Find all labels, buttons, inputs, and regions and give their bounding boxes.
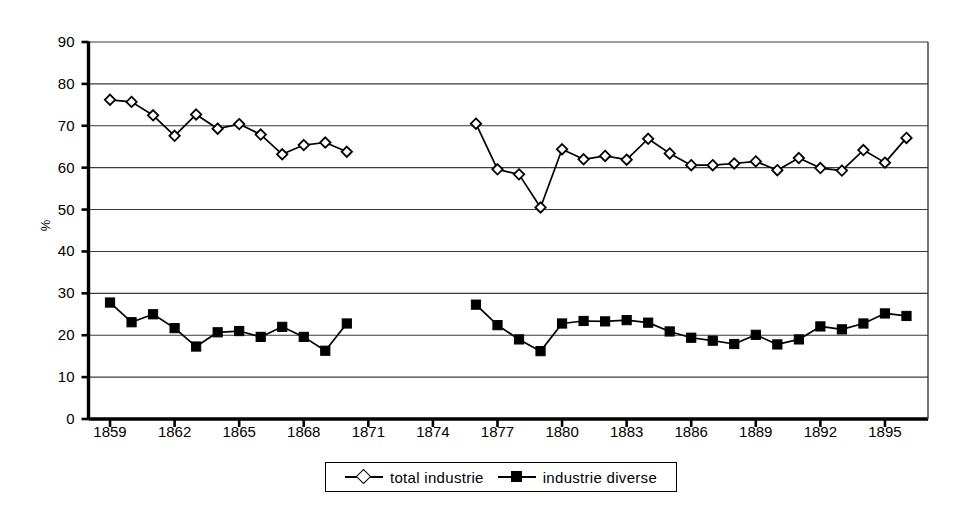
x-tick-label: 1886 bbox=[656, 424, 726, 439]
y-tick-label: 10 bbox=[41, 369, 75, 384]
x-tick-label: 1880 bbox=[527, 424, 597, 439]
x-tick-label: 1889 bbox=[721, 424, 791, 439]
x-tick-label: 1859 bbox=[75, 424, 145, 439]
y-tick-label: 40 bbox=[41, 243, 75, 258]
y-tick-label: 90 bbox=[41, 34, 75, 49]
legend-marker-square-icon bbox=[498, 470, 536, 484]
y-tick-label: 60 bbox=[41, 160, 75, 175]
plot-frame bbox=[89, 42, 929, 420]
x-tick-label: 1874 bbox=[398, 424, 468, 439]
x-tick-label: 1895 bbox=[850, 424, 920, 439]
x-tick-label: 1871 bbox=[333, 424, 403, 439]
y-tick-label: 80 bbox=[41, 76, 75, 91]
legend-label: total industrie bbox=[390, 469, 484, 486]
legend-marker-diamond-icon bbox=[345, 470, 383, 484]
data-series-layer bbox=[105, 95, 912, 356]
x-tick-label: 1877 bbox=[462, 424, 532, 439]
plot-area bbox=[0, 0, 965, 519]
x-tick-label: 1862 bbox=[140, 424, 210, 439]
y-tick-label: 70 bbox=[41, 118, 75, 133]
x-tick-label: 1865 bbox=[204, 424, 274, 439]
x-tick-label: 1868 bbox=[269, 424, 339, 439]
x-tick-label: 1883 bbox=[592, 424, 662, 439]
y-tick-label: 50 bbox=[41, 202, 75, 217]
y-tick-label: 30 bbox=[41, 285, 75, 300]
y-tick-label: 20 bbox=[41, 327, 75, 342]
gridlines bbox=[89, 42, 929, 419]
legend-label: industrie diverse bbox=[543, 469, 657, 486]
y-tick-label: 0 bbox=[41, 411, 75, 426]
chart-legend: total industrie industrie diverse bbox=[325, 462, 677, 492]
chart-figure: % 9080706050403020100 185918621865186818… bbox=[0, 0, 965, 519]
x-tick-label: 1892 bbox=[785, 424, 855, 439]
legend-entry-industrie-diverse: industrie diverse bbox=[498, 469, 657, 486]
legend-entry-total-industrie: total industrie bbox=[345, 469, 484, 486]
